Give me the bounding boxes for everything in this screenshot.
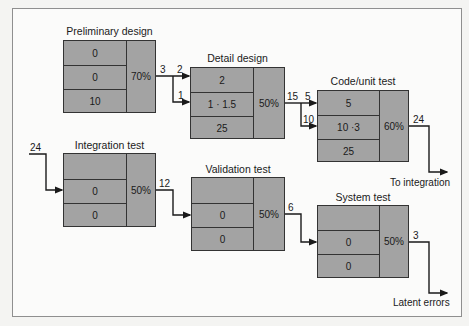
detection-efficiency: 50% bbox=[254, 68, 284, 138]
newly-generated-errors: 0 bbox=[64, 203, 126, 227]
errors-passed-through bbox=[318, 206, 379, 230]
stage-title-validation-test: Validation test bbox=[191, 163, 285, 175]
errors-passed-through: 2 bbox=[191, 68, 253, 92]
detection-efficiency: 50% bbox=[380, 206, 408, 277]
stage-box-system-test: 0 0 50% bbox=[317, 205, 409, 278]
flow-label-detail-out: 15 bbox=[287, 91, 298, 102]
stage-box-integration-test: 0 0 50% bbox=[63, 153, 156, 227]
output-latent-errors: Latent errors bbox=[393, 297, 450, 308]
errors-passed-through: 5 bbox=[318, 91, 379, 115]
flow-label-prelim-out: 3 bbox=[160, 64, 166, 75]
stage-title-integration-test: Integration test bbox=[63, 139, 156, 151]
errors-passed-through bbox=[64, 154, 126, 179]
errors-passed-through: 0 bbox=[64, 41, 126, 65]
flow-label-code-in-mid: 10 bbox=[303, 114, 314, 125]
output-to-integration: To integration bbox=[390, 177, 450, 188]
errors-amplified: 0 bbox=[64, 179, 126, 203]
detection-efficiency: 50% bbox=[254, 178, 284, 250]
stage-box-code-unit-test: 5 10 ·3 25 60% bbox=[317, 90, 409, 162]
flow-label-system-out: 3 bbox=[413, 230, 419, 241]
detection-efficiency: 50% bbox=[127, 154, 155, 226]
errors-passed-through bbox=[192, 178, 253, 203]
stage-box-detail-design: 2 1 · 1.5 25 50% bbox=[190, 67, 285, 139]
flow-label-code-out: 24 bbox=[413, 114, 424, 125]
newly-generated-errors: 25 bbox=[191, 116, 253, 139]
errors-amplified: 10 ·3 bbox=[318, 115, 379, 139]
errors-amplified: 0 bbox=[64, 65, 126, 89]
detection-efficiency: 70% bbox=[127, 41, 155, 112]
flow-label-integration-out: 12 bbox=[159, 178, 170, 189]
stage-box-validation-test: 0 0 50% bbox=[191, 177, 285, 251]
flow-label-code-in-top: 5 bbox=[305, 91, 311, 102]
stage-title-code-unit-test: Code/unit test bbox=[317, 75, 409, 87]
errors-amplified: 0 bbox=[192, 203, 253, 227]
newly-generated-errors: 10 bbox=[64, 89, 126, 113]
errors-amplified: 0 bbox=[318, 230, 379, 254]
newly-generated-errors: 25 bbox=[318, 139, 379, 162]
detection-efficiency: 60% bbox=[380, 91, 408, 161]
newly-generated-errors: 0 bbox=[192, 227, 253, 251]
defect-amplification-diagram: Preliminary design 0 0 10 70% Detail des… bbox=[0, 0, 469, 326]
flow-label-validation-out: 6 bbox=[288, 202, 294, 213]
errors-amplified: 1 · 1.5 bbox=[191, 92, 253, 116]
flow-label-detail-in-top: 2 bbox=[177, 64, 183, 75]
stage-title-system-test: System test bbox=[317, 191, 409, 203]
flow-label-detail-in-mid: 1 bbox=[178, 90, 184, 101]
flow-label-integration-in: 24 bbox=[30, 142, 41, 153]
stage-title-detail-design: Detail design bbox=[190, 52, 285, 64]
stage-title-preliminary-design: Preliminary design bbox=[63, 25, 156, 37]
stage-box-preliminary-design: 0 0 10 70% bbox=[63, 40, 156, 113]
newly-generated-errors: 0 bbox=[318, 254, 379, 278]
